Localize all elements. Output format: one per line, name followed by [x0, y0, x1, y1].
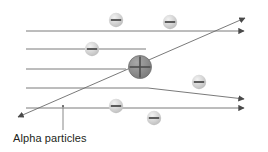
figure-canvas: Alpha particles	[0, 0, 268, 152]
scattering-diagram	[0, 0, 268, 152]
electron-4	[192, 75, 206, 89]
alpha-beam-4-deflected	[26, 88, 244, 99]
electron-2	[163, 15, 177, 29]
electron-6	[147, 111, 161, 125]
electron-1	[109, 13, 123, 27]
electron-3	[85, 42, 99, 56]
nucleus	[129, 56, 152, 79]
electron-5	[109, 99, 123, 113]
caption-label: Alpha particles	[13, 132, 87, 144]
caption-pointer	[62, 105, 64, 130]
